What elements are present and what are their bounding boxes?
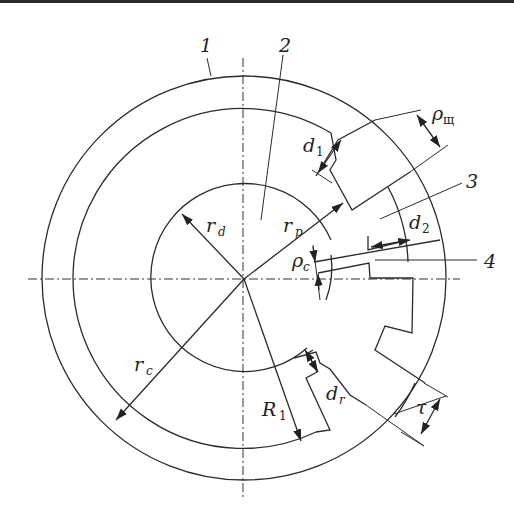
- slot-profile-upper-tooth: [330, 133, 410, 210]
- svg-text:d: d: [303, 134, 315, 156]
- svg-text:R: R: [261, 398, 276, 420]
- callout-4: 4: [483, 250, 496, 272]
- callout-2-leader: [261, 55, 283, 220]
- svg-text:r: r: [339, 393, 346, 407]
- label-rho-sh: ρ щ: [431, 102, 454, 127]
- rc-radius: [116, 279, 244, 420]
- svg-text:d: d: [409, 211, 421, 233]
- svg-text:p: p: [295, 225, 303, 239]
- rho-sh-ext-1: [375, 110, 421, 120]
- label-R-1: R 1: [261, 398, 287, 423]
- svg-text:1: 1: [279, 409, 287, 423]
- svg-text:d: d: [326, 382, 338, 404]
- inner-circle: [151, 184, 331, 372]
- svg-text:1: 1: [316, 145, 324, 159]
- small-step: [368, 236, 408, 250]
- label-r-d: r d: [206, 214, 226, 239]
- channel-line-upper: [314, 240, 440, 262]
- tau-extension-3: [424, 383, 448, 397]
- label-r-p: r p: [283, 214, 303, 239]
- svg-text:c: c: [146, 364, 153, 378]
- label-d-1: d 1: [303, 134, 324, 159]
- callout-2: 2: [278, 34, 291, 56]
- callout-1-leader: [207, 58, 211, 76]
- inner-circle-arc-right: [326, 255, 332, 300]
- callout-3: 3: [466, 170, 478, 192]
- svg-text:r: r: [283, 214, 294, 236]
- slot-profile-upper: [316, 120, 375, 176]
- middle-circle: [73, 108, 331, 448]
- svg-text:2: 2: [422, 222, 430, 236]
- channel-lower-profile: [318, 263, 425, 383]
- d2-arc: [388, 187, 408, 262]
- label-rho-c: ρ c: [291, 249, 310, 274]
- svg-text:r: r: [206, 214, 217, 236]
- svg-text:r: r: [134, 353, 145, 375]
- label-d-2: d 2: [409, 211, 430, 236]
- svg-text:d: d: [218, 225, 226, 239]
- label-r-c: r c: [134, 353, 153, 378]
- d1-ext: [312, 170, 332, 183]
- rho-sh-ext-2: [410, 145, 448, 172]
- tau-extension-4: [401, 432, 424, 446]
- svg-text:щ: щ: [443, 113, 454, 127]
- label-tau: τ: [416, 396, 427, 418]
- svg-text:c: c: [303, 260, 310, 274]
- rotor-cross-section-diagram: 1 2 3 4 r d r p r c R 1 d 1 d 2 d r ρ c …: [0, 0, 514, 523]
- callout-1: 1: [200, 34, 212, 56]
